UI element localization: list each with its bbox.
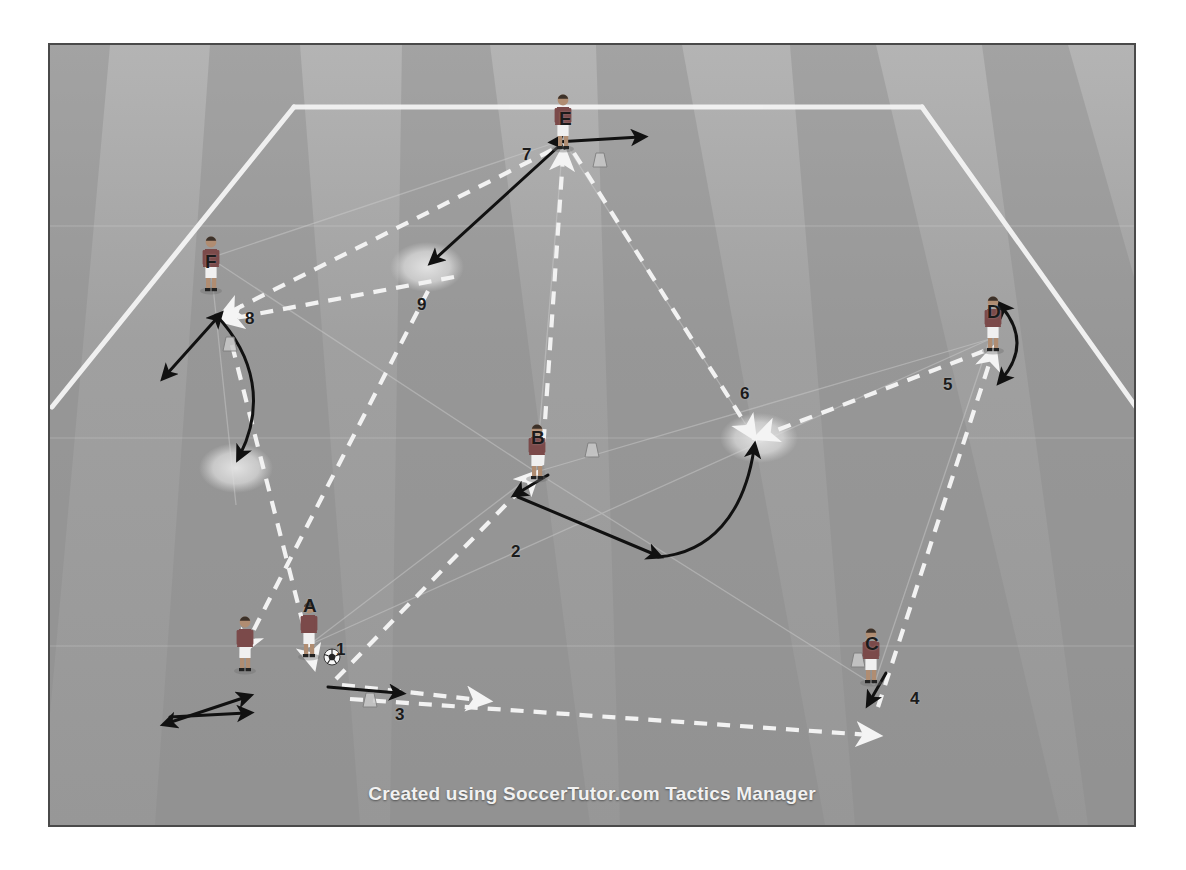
pitch-graphic (50, 45, 1134, 825)
pitch-frame: E F B D C A 1 2 3 4 5 6 7 8 9 Created us… (48, 43, 1136, 827)
soccer-ball (324, 649, 340, 665)
zone-marker-9 (390, 242, 464, 292)
credit-text: Created using SoccerTutor.com Tactics Ma… (50, 783, 1134, 805)
cone-f (223, 337, 237, 351)
cone-a (363, 693, 377, 707)
diagram-stage: E F B D C A 1 2 3 4 5 6 7 8 9 Created us… (0, 0, 1186, 870)
cone-e (593, 153, 607, 167)
cone-b (585, 443, 599, 457)
zone-marker-6 (720, 413, 798, 463)
